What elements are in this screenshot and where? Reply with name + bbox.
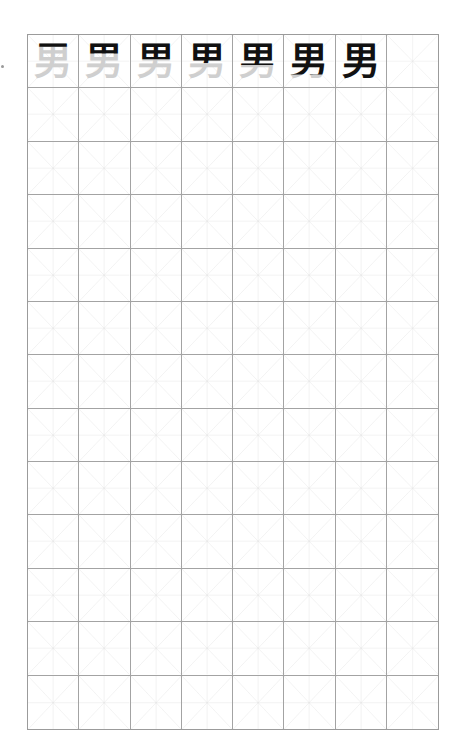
practice-cell[interactable] bbox=[336, 142, 387, 195]
practice-cell[interactable] bbox=[233, 515, 284, 568]
practice-cell[interactable] bbox=[79, 249, 130, 302]
practice-cell[interactable] bbox=[28, 462, 79, 515]
practice-cell[interactable] bbox=[387, 355, 438, 408]
practice-cell[interactable] bbox=[182, 355, 233, 408]
practice-cell[interactable] bbox=[387, 409, 438, 462]
practice-cell[interactable] bbox=[387, 249, 438, 302]
practice-cell[interactable] bbox=[233, 569, 284, 622]
practice-cell[interactable] bbox=[233, 88, 284, 141]
practice-cell[interactable] bbox=[336, 462, 387, 515]
practice-cell[interactable] bbox=[182, 88, 233, 141]
practice-cell[interactable] bbox=[387, 195, 438, 248]
practice-cell[interactable] bbox=[131, 355, 182, 408]
practice-cell[interactable] bbox=[284, 515, 335, 568]
practice-cell[interactable] bbox=[131, 142, 182, 195]
practice-cell[interactable] bbox=[182, 462, 233, 515]
practice-cell[interactable] bbox=[131, 195, 182, 248]
practice-cell[interactable] bbox=[233, 622, 284, 675]
practice-cell[interactable] bbox=[28, 142, 79, 195]
practice-cell[interactable] bbox=[233, 676, 284, 729]
practice-cell[interactable] bbox=[233, 302, 284, 355]
practice-cell[interactable] bbox=[131, 88, 182, 141]
practice-cell[interactable] bbox=[182, 409, 233, 462]
practice-cell[interactable]: 男男 bbox=[79, 35, 130, 88]
practice-cell[interactable] bbox=[28, 355, 79, 408]
practice-cell[interactable] bbox=[387, 142, 438, 195]
practice-cell[interactable] bbox=[387, 35, 438, 88]
practice-cell[interactable] bbox=[387, 302, 438, 355]
practice-cell[interactable]: 男男 bbox=[336, 35, 387, 88]
practice-cell[interactable] bbox=[284, 569, 335, 622]
practice-cell[interactable] bbox=[131, 622, 182, 675]
practice-cell[interactable] bbox=[284, 355, 335, 408]
practice-cell[interactable] bbox=[182, 676, 233, 729]
practice-cell[interactable] bbox=[79, 355, 130, 408]
practice-cell[interactable] bbox=[387, 462, 438, 515]
practice-cell[interactable]: 男男 bbox=[182, 35, 233, 88]
practice-cell[interactable]: 男男 bbox=[233, 35, 284, 88]
practice-cell[interactable] bbox=[284, 195, 335, 248]
practice-cell[interactable] bbox=[79, 88, 130, 141]
practice-cell[interactable] bbox=[131, 409, 182, 462]
practice-cell[interactable] bbox=[182, 249, 233, 302]
practice-cell[interactable] bbox=[336, 88, 387, 141]
practice-cell[interactable] bbox=[284, 88, 335, 141]
practice-cell[interactable] bbox=[131, 462, 182, 515]
practice-cell[interactable] bbox=[28, 569, 79, 622]
practice-cell[interactable] bbox=[28, 195, 79, 248]
practice-cell[interactable] bbox=[79, 195, 130, 248]
practice-cell[interactable] bbox=[182, 569, 233, 622]
practice-cell[interactable] bbox=[336, 676, 387, 729]
practice-cell[interactable] bbox=[79, 622, 130, 675]
practice-cell[interactable] bbox=[28, 409, 79, 462]
practice-cell[interactable] bbox=[387, 569, 438, 622]
practice-cell[interactable] bbox=[336, 249, 387, 302]
practice-cell[interactable] bbox=[28, 88, 79, 141]
practice-cell[interactable] bbox=[284, 142, 335, 195]
practice-cell[interactable] bbox=[336, 302, 387, 355]
practice-cell[interactable] bbox=[79, 515, 130, 568]
practice-cell[interactable] bbox=[79, 462, 130, 515]
practice-cell[interactable] bbox=[182, 142, 233, 195]
practice-cell[interactable] bbox=[79, 142, 130, 195]
practice-cell[interactable] bbox=[131, 302, 182, 355]
practice-cell[interactable] bbox=[336, 622, 387, 675]
practice-cell[interactable] bbox=[28, 302, 79, 355]
practice-cell[interactable] bbox=[131, 515, 182, 568]
practice-cell[interactable]: 男男 bbox=[131, 35, 182, 88]
practice-cell[interactable] bbox=[233, 462, 284, 515]
practice-cell[interactable] bbox=[182, 515, 233, 568]
practice-cell[interactable] bbox=[182, 302, 233, 355]
practice-cell[interactable] bbox=[284, 622, 335, 675]
practice-cell[interactable] bbox=[387, 88, 438, 141]
practice-cell[interactable] bbox=[182, 622, 233, 675]
practice-cell[interactable] bbox=[28, 676, 79, 729]
practice-cell[interactable] bbox=[387, 515, 438, 568]
practice-cell[interactable] bbox=[387, 622, 438, 675]
practice-cell[interactable] bbox=[79, 676, 130, 729]
practice-cell[interactable] bbox=[387, 676, 438, 729]
practice-cell[interactable] bbox=[28, 249, 79, 302]
practice-cell[interactable] bbox=[233, 195, 284, 248]
practice-cell[interactable] bbox=[233, 142, 284, 195]
practice-cell[interactable] bbox=[28, 515, 79, 568]
practice-cell[interactable] bbox=[284, 302, 335, 355]
practice-cell[interactable] bbox=[284, 249, 335, 302]
practice-cell[interactable] bbox=[131, 249, 182, 302]
practice-cell[interactable] bbox=[336, 195, 387, 248]
practice-cell[interactable] bbox=[336, 409, 387, 462]
practice-cell[interactable] bbox=[182, 195, 233, 248]
practice-cell[interactable] bbox=[336, 515, 387, 568]
practice-cell[interactable] bbox=[131, 569, 182, 622]
practice-cell[interactable] bbox=[79, 569, 130, 622]
practice-cell[interactable] bbox=[336, 355, 387, 408]
practice-cell[interactable] bbox=[79, 302, 130, 355]
practice-cell[interactable] bbox=[131, 676, 182, 729]
practice-cell[interactable]: 男男 bbox=[28, 35, 79, 88]
practice-cell[interactable] bbox=[233, 355, 284, 408]
practice-cell[interactable] bbox=[284, 676, 335, 729]
practice-cell[interactable] bbox=[284, 409, 335, 462]
practice-cell[interactable]: 男男 bbox=[284, 35, 335, 88]
practice-cell[interactable] bbox=[28, 622, 79, 675]
practice-cell[interactable] bbox=[233, 409, 284, 462]
